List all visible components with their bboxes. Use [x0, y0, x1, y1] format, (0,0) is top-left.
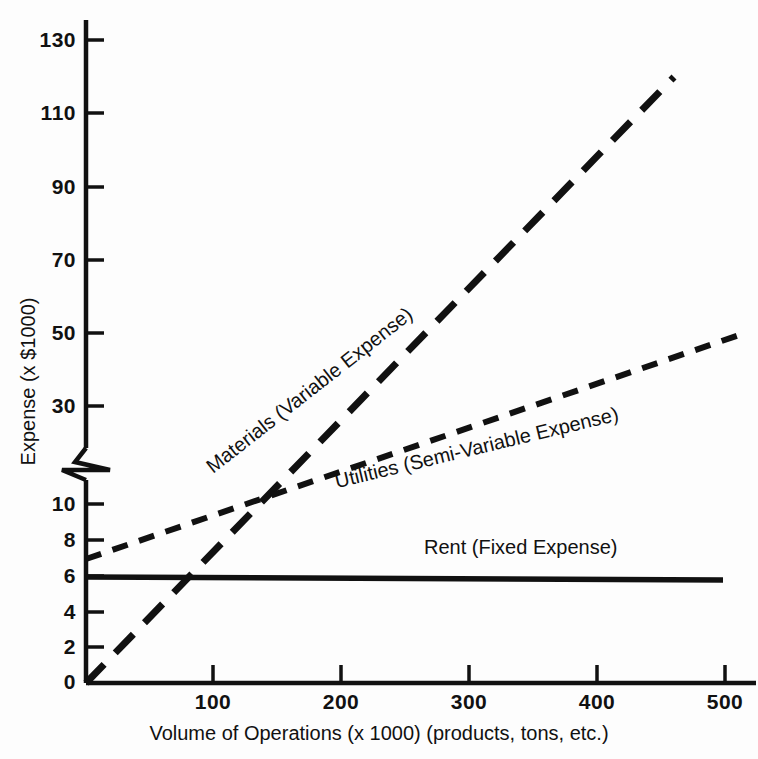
series-line-materials — [86, 77, 674, 683]
y-tick-label-0: 0 — [0, 670, 76, 694]
y-tick-label-70: 70 — [0, 248, 76, 272]
chart-plot-area — [0, 0, 758, 759]
y-tick-label-2: 2 — [0, 635, 76, 659]
y-axis-title: Expense (x $1000) — [17, 282, 40, 482]
chart-figure: 130 110 90 70 50 30 10 8 6 4 2 0 100 200… — [0, 0, 758, 759]
x-tick-label-500: 500 — [707, 690, 744, 714]
y-tick-label-10: 10 — [0, 492, 76, 516]
y-tick-label-90: 90 — [0, 175, 76, 199]
x-tick-label-300: 300 — [451, 690, 488, 714]
series-line-rent — [86, 577, 723, 580]
y-tick-label-110: 110 — [0, 101, 76, 125]
x-axis-title: Volume of Operations (x 1000) (products,… — [0, 722, 758, 745]
y-tick-label-6: 6 — [0, 564, 76, 588]
series-line-utilities — [86, 334, 742, 559]
y-axis-break-mark — [62, 448, 110, 480]
y-tick-label-8: 8 — [0, 528, 76, 552]
series-label-rent: Rent (Fixed Expense) — [424, 536, 617, 559]
x-tick-label-400: 400 — [579, 690, 616, 714]
x-tick-label-100: 100 — [195, 690, 232, 714]
y-tick-label-130: 130 — [0, 28, 76, 52]
y-tick-label-4: 4 — [0, 600, 76, 624]
x-tick-label-200: 200 — [323, 690, 360, 714]
